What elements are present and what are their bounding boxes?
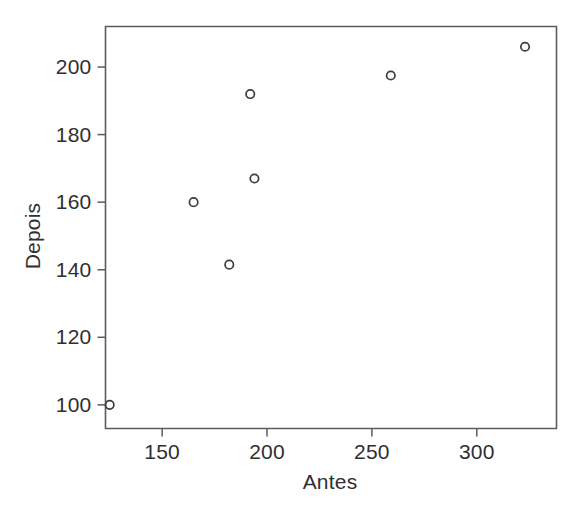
scatter-plot-figure: 100120140160180200 150200250300 Antes De… [0,0,587,518]
x-axis-tick-label: 200 [249,440,285,463]
y-axis-tick-label: 100 [56,393,92,416]
y-axis-tick-label: 140 [56,258,92,281]
x-axis-tick-label: 150 [144,440,180,463]
x-axis-title: Antes [303,470,358,493]
y-axis-title: Depois [21,203,44,270]
data-point-series [105,43,529,409]
data-point [189,198,197,206]
data-point [246,90,254,98]
data-point [250,174,258,182]
data-point [521,43,529,51]
y-axis-ticks [98,67,106,405]
x-axis-tick-label: 300 [459,440,495,463]
y-axis-tick-label: 180 [56,123,92,146]
y-axis-tick-label: 160 [56,190,92,213]
plot-frame [106,27,557,429]
x-axis-tick-label: 250 [354,440,390,463]
y-axis-tick-label: 120 [56,325,92,348]
data-point [225,260,233,268]
data-point [387,71,395,79]
x-axis-tick-labels: 150200250300 [144,440,494,463]
x-axis-ticks [162,429,477,437]
data-point [105,401,113,409]
chart-canvas: 100120140160180200 150200250300 Antes De… [0,0,587,518]
y-axis-tick-label: 200 [56,55,92,78]
y-axis-tick-labels: 100120140160180200 [56,55,92,416]
